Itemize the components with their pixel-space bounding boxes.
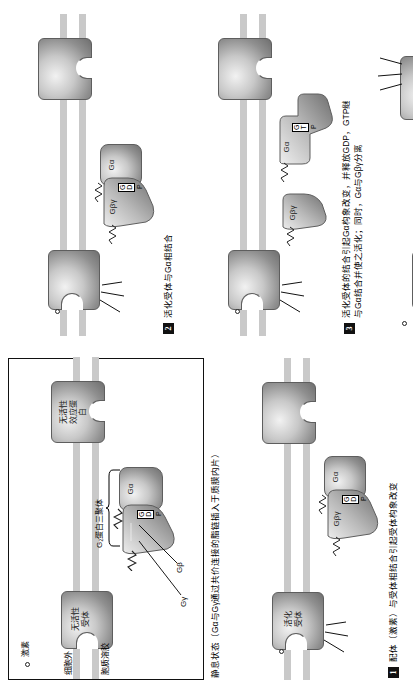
effector-binding-pocket [300,401,316,423]
nucleotide-p: P [155,510,162,517]
extracellular-label: 细胞外 [64,651,73,675]
nucleotide-d: D [126,185,133,190]
activated-receptor [228,250,280,310]
hormone-legend-label: 激素 [21,641,30,657]
effector-label-line1: 无活性 [59,400,68,424]
step-3-caption-line1: 活化受体的结合引起Gα构象改变，并释放GDP，GTP继 [341,12,353,318]
nucleotide-p: P [136,183,143,190]
panel-step-2: Gα Gβγ G D P [8,14,158,336]
inactive-receptor-label-line2: 受体 [81,611,90,627]
g-beta-gamma-label-text: Gβγ [288,206,297,221]
effector-activation-spark-icon [374,48,406,92]
hormone-legend-dot [25,662,30,667]
g-beta-gamma-label: Gβγ [108,192,118,222]
g-beta-gamma-label-text: Gβγ [332,512,341,527]
nucleotide-p: P [310,123,317,130]
g-beta-gamma-label-text: Gβγ [108,200,117,215]
nucleotide-gtp: G T [292,123,309,132]
effector-label-line3: 白 [78,408,87,416]
receptor-ligand-pocket [61,293,83,310]
g-trimer-label: G₂蛋白三聚体 [95,499,104,548]
g-beta-gamma-label: Gβγ [332,504,342,534]
bound-hormone-dot [279,649,284,654]
activated-receptor [48,250,100,310]
effector-binding-pocket [89,400,105,422]
lipid-anchor-gamma-icon [108,224,117,244]
nucleotide-gdp: G D [118,183,135,192]
g-alpha-label: Gα [282,134,292,160]
g-alpha-label-text: Gα [331,472,340,483]
nucleotide-p-text: P [360,496,367,501]
bound-hormone-dot [55,309,60,314]
step-3-caption: 活化受体的结合引起Gα构象改变，并释放GDP，GTP继 与Gα结合并使之活化；同… [341,12,364,318]
g-beta-gamma-label: Gβγ [288,198,298,228]
nucleotide-g: G [138,512,145,517]
g-trimer-label-text: G₂蛋白三聚体 [95,499,104,548]
panel-step-1: 活化 受体 Gα Gβγ G D P [232,358,382,680]
inactive-receptor-label-line1: 无活性 [71,607,80,631]
activated-receptor-label: 活化 受体 [284,594,303,644]
inactive-effector-protein [218,38,272,100]
nucleotide-g: G [119,185,126,190]
panel-resting-state: 激素 无活性 受体 G₂蛋白三聚体 Gα [8,358,204,680]
cytosol-label: 胞质溶胶 [101,643,110,675]
nucleotide-gdp: G D [342,495,359,504]
nucleotide-gdp: G D [137,510,154,519]
g-alpha-label-text: Gα [107,160,116,171]
activated-receptor-label-line1: 活化 [284,611,293,627]
g-alpha-label-text: Gα [282,142,291,153]
released-hormone-dot [402,321,407,326]
lipid-anchor-gamma-icon [332,536,341,556]
effector-label-line2: 效应蛋 [69,400,78,424]
step-1-number: 1 [388,667,399,678]
inactive-effector-protein [38,38,92,100]
nucleotide-p-text: P [310,124,317,129]
effector-binding-pocket [76,57,92,79]
panel-step-4: Gβγ Gα G T P [372,14,413,336]
lipid-anchor-gamma-icon [286,226,295,246]
g-gamma-label: Gγ [179,597,188,607]
figure-rotation-wrapper: 激素 无活性 受体 G₂蛋白三聚体 Gα [0,0,413,686]
receptor-activation-spark-icon [278,278,308,318]
lipid-anchor-alpha-icon [318,494,327,514]
nucleotide-d: D [145,512,152,517]
lipid-anchor-alpha-icon [94,182,103,202]
g-alpha-label-text: Gα [126,484,135,495]
nucleotide-p-text: P [155,511,162,516]
inactive-receptor-label: 无活性 受体 [71,593,90,645]
receptor-activation-spark-icon [98,278,128,318]
nucleotide-g: G [293,125,300,130]
receptor-ligand-pocket [241,293,263,310]
panel-step-3: Gβγ Gα G T P [188,14,338,336]
gpcr-signaling-figure: 激素 无活性 受体 G₂蛋白三聚体 Gα [0,0,413,686]
lipid-anchor-alpha-icon [280,162,289,182]
nucleotide-t: T [300,125,307,129]
nucleotide-g: G [343,497,350,502]
nucleotide-p: P [360,495,367,502]
nucleotide-p-text: P [136,184,143,189]
step-2-number: 2 [163,323,174,334]
bound-hormone-dot [235,309,240,314]
step-2-caption: 活化受体与Gα相结合 [163,18,175,318]
inactive-effector-protein [262,382,316,444]
inactive-effector-label: 无活性 效应蛋 白 [59,385,88,439]
step-3-caption-line2: 与Gα结合并使之活化；同时，Gα与Gβγ分离 [353,12,365,318]
activated-receptor-label-line2: 受体 [294,611,303,627]
step-3-number: 3 [344,323,355,334]
nucleotide-d: D [350,497,357,502]
receptor-activation-spark-icon [322,618,352,658]
effector-binding-pocket [256,57,272,79]
g-gamma-label-text: Gγ [179,597,188,607]
step-1-caption: 配体（激素）与受体相结合引起受体构象改变 [388,362,400,662]
lipid-anchor-alpha-icon [113,507,123,529]
resting-caption: 静息状态（Gα与Gγ通过共价连接的脂链插入于质膜内片） [210,348,222,678]
